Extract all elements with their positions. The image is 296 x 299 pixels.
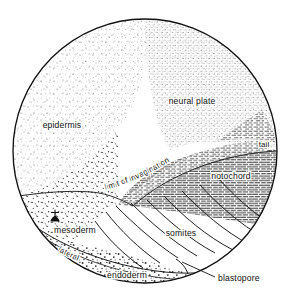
fate-map-svg: epidermis neural plate tail notochord so… — [0, 0, 296, 299]
label-epidermis: epidermis — [43, 120, 82, 130]
label-neural-plate: neural plate — [169, 96, 216, 106]
label-endoderm: endoderm — [107, 270, 147, 280]
label-mesoderm: mesoderm — [54, 225, 96, 235]
label-tail: tail — [259, 140, 270, 149]
label-blastopore: blastopore — [218, 273, 260, 283]
embryo-fate-map-figure: epidermis neural plate tail notochord so… — [0, 0, 296, 299]
label-notochord: notochord — [211, 171, 251, 181]
label-somites: somites — [166, 228, 197, 238]
